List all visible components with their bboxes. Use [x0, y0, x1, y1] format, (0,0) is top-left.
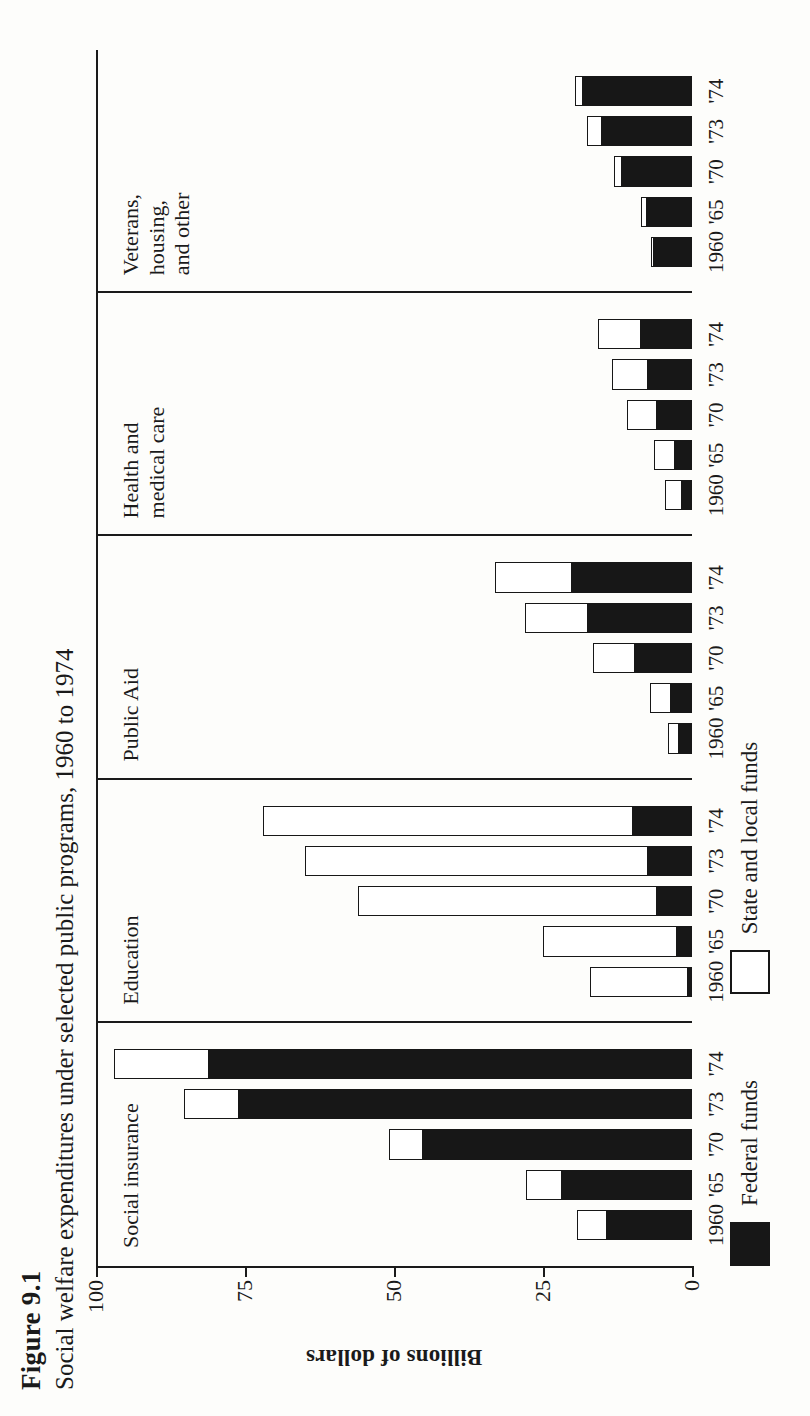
- category-label: 1960: [704, 961, 729, 1003]
- bar-veterans-housing-other-73: [587, 116, 692, 146]
- category-label: 1960: [704, 474, 729, 516]
- bar-segment-state-local: [587, 116, 602, 146]
- axis-tick: [692, 1268, 694, 1277]
- bar-segment-federal: [648, 359, 692, 389]
- bar-segment-federal: [633, 806, 692, 836]
- bar-segment-federal: [641, 319, 692, 349]
- bar-segment-federal: [671, 683, 692, 713]
- bar-public-aid-70: [593, 643, 692, 673]
- bar-segment-state-local: [614, 157, 622, 187]
- bar-health-medical-74: [598, 319, 692, 349]
- legend-item-federal: Federal funds: [730, 1080, 770, 1266]
- bar-health-medical-73: [612, 359, 692, 389]
- group-label-social-insurance: Social insurance: [118, 1103, 144, 1248]
- bar-segment-state-local: [593, 643, 635, 673]
- category-label: '74: [704, 322, 729, 347]
- group-label-education: Education: [118, 916, 144, 1005]
- category-label: '70: [704, 889, 729, 914]
- group-label-veterans-housing-other: Veterans, housing, and other: [118, 193, 195, 275]
- legend-label-state-local: State and local funds: [737, 742, 763, 934]
- bar-education-1960: [590, 967, 692, 997]
- bar-segment-state-local: [575, 76, 583, 106]
- bar-social-insurance-74: [114, 1049, 692, 1079]
- legend-item-state-local: State and local funds: [730, 742, 770, 994]
- category-label: 1960: [704, 717, 729, 759]
- category-label: '65: [704, 1172, 729, 1197]
- bar-segment-federal: [209, 1049, 692, 1079]
- group-separator: [96, 778, 692, 780]
- bar-public-aid-74: [495, 562, 692, 592]
- bar-veterans-housing-other-65: [641, 197, 692, 227]
- category-label: '65: [704, 929, 729, 954]
- bar-segment-federal: [562, 1170, 692, 1200]
- bar-segment-state-local: [114, 1049, 209, 1079]
- figure-title-block: Figure 9.1 Social welfare expenditures u…: [16, 649, 80, 1390]
- bar-segment-state-local: [305, 846, 648, 876]
- axis-tick: [245, 1268, 247, 1277]
- category-label: 1960: [704, 1204, 729, 1246]
- bar-segment-state-local: [650, 683, 671, 713]
- axis-tick-label: 0: [679, 1280, 705, 1324]
- bar-segment-federal: [657, 886, 692, 916]
- figure-number: Figure 9.1: [16, 649, 48, 1390]
- figure-rotation-wrapper: Figure 9.1 Social welfare expenditures u…: [0, 0, 810, 1416]
- bar-veterans-housing-other-1960: [651, 237, 692, 267]
- plot-frame-top: [96, 50, 98, 1266]
- bar-segment-federal: [583, 76, 692, 106]
- axis-tick-label: 25: [530, 1280, 556, 1324]
- bar-segment-state-local: [654, 440, 675, 470]
- category-label: '70: [704, 646, 729, 671]
- bar-segment-state-local: [526, 1170, 562, 1200]
- bar-segment-federal: [602, 116, 692, 146]
- bar-social-insurance-73: [184, 1089, 692, 1119]
- bar-social-insurance-1960: [577, 1210, 692, 1240]
- bar-segment-state-local: [184, 1089, 239, 1119]
- category-label: '74: [704, 79, 729, 104]
- category-label: '73: [704, 849, 729, 874]
- bar-public-aid-65: [650, 683, 692, 713]
- bar-education-74: [263, 806, 692, 836]
- bar-education-70: [358, 886, 692, 916]
- category-label: '70: [704, 402, 729, 427]
- bar-segment-federal: [648, 846, 692, 876]
- bar-segment-federal: [657, 400, 692, 430]
- bar-segment-state-local: [389, 1129, 422, 1159]
- bar-segment-state-local: [525, 603, 588, 633]
- category-label: '65: [704, 686, 729, 711]
- group-label-public-aid: Public Aid: [118, 668, 144, 762]
- category-label: '73: [704, 605, 729, 630]
- bar-segment-state-local: [358, 886, 657, 916]
- bar-social-insurance-65: [526, 1170, 692, 1200]
- bar-health-medical-1960: [665, 480, 692, 510]
- bar-segment-state-local: [612, 359, 648, 389]
- group-label-health-medical: Health and medical care: [118, 407, 169, 519]
- bar-segment-federal: [682, 480, 692, 510]
- bar-segment-state-local: [543, 926, 677, 956]
- bar-public-aid-1960: [668, 723, 692, 753]
- bar-segment-state-local: [668, 723, 679, 753]
- legend-label-federal: Federal funds: [737, 1080, 763, 1206]
- bar-segment-state-local: [577, 1210, 607, 1240]
- category-label: '65: [704, 199, 729, 224]
- axis-tick-label: 50: [381, 1280, 407, 1324]
- bar-segment-state-local: [263, 806, 633, 836]
- bar-segment-federal: [423, 1129, 692, 1159]
- axis-tick: [394, 1268, 396, 1277]
- bar-veterans-housing-other-70: [614, 157, 692, 187]
- plot-area: Social insurance1960'65'70'73'74Educatio…: [96, 50, 692, 1266]
- bar-segment-federal: [607, 1210, 692, 1240]
- legend-swatch-state-local-icon: [730, 950, 770, 994]
- category-label: '70: [704, 1132, 729, 1157]
- page-title: Social welfare expenditures under select…: [50, 649, 80, 1390]
- bar-segment-federal: [675, 440, 692, 470]
- axis-tick-label: 100: [83, 1280, 109, 1324]
- bar-segment-federal: [572, 562, 692, 592]
- bar-social-insurance-70: [389, 1129, 692, 1159]
- bar-public-aid-73: [525, 603, 692, 633]
- axis-tick: [543, 1268, 545, 1277]
- bar-segment-federal: [239, 1089, 692, 1119]
- bar-segment-federal: [679, 723, 692, 753]
- bar-segment-federal: [588, 603, 692, 633]
- bar-segment-federal: [688, 967, 692, 997]
- group-separator: [96, 1021, 692, 1023]
